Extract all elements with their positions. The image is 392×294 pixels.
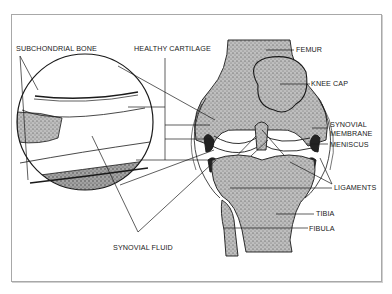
label-synovial-membrane-line2: MEMBRANE (330, 130, 372, 138)
label-synovial-fluid: SYNOVIAL FLUID (113, 244, 173, 252)
label-synovial-membrane-line1: SYNOVIAL (330, 121, 367, 129)
label-healthy-cartilage: HEALTHY CARTILAGE (134, 45, 211, 53)
label-ligaments: LIGAMENTS (334, 184, 376, 192)
magnified-view (17, 54, 153, 200)
label-tibia: TIBIA (316, 210, 334, 218)
label-knee-cap: KNEE CAP (311, 80, 348, 88)
label-meniscus: MENISCUS (330, 141, 369, 149)
label-fibula: FIBULA (309, 225, 335, 233)
label-subchondral-bone: SUBCHONDRIAL BONE (16, 45, 97, 53)
label-femur: FEMUR (296, 46, 322, 54)
